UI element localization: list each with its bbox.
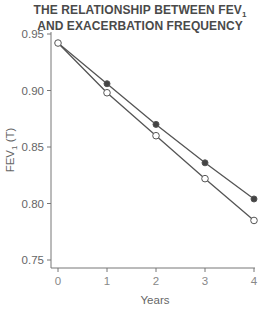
open-marker	[202, 175, 209, 182]
x-axis-label: Years	[141, 294, 170, 306]
y-tick-label: 0.80	[22, 198, 44, 210]
filled-marker	[202, 160, 208, 166]
x-tick-label: 3	[202, 275, 208, 287]
series-line-1	[58, 43, 254, 220]
x-tick-label: 0	[55, 275, 61, 287]
x-tick-label: 1	[104, 275, 110, 287]
x-tick-label: 2	[153, 275, 159, 287]
open-marker	[55, 40, 62, 47]
y-tick-label: 0.75	[22, 254, 44, 266]
y-tick-label: 0.90	[22, 85, 44, 97]
open-marker	[251, 217, 258, 224]
y-axis-label: FEV1 (T)	[4, 127, 19, 172]
y-tick-label: 0.95	[22, 28, 44, 40]
filled-marker	[153, 121, 159, 127]
open-marker	[104, 89, 111, 96]
line-chart: 0.950.900.850.800.7501234YearsFEV1 (T)	[0, 0, 264, 309]
x-tick-label: 4	[251, 275, 258, 287]
filled-marker	[104, 81, 110, 87]
filled-marker	[251, 196, 257, 202]
open-marker	[153, 132, 160, 139]
y-tick-label: 0.85	[22, 141, 44, 153]
